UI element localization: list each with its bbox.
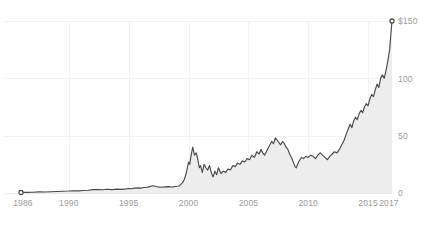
y-tick-label-0: 0	[398, 188, 403, 198]
x-tick-label-2010: 2010	[298, 198, 318, 208]
y-axis-tick-labels: 050100$150	[398, 16, 418, 198]
price-area-fill	[21, 21, 392, 193]
y-tick-label-50: 50	[398, 131, 408, 141]
y-tick-label-150: $150	[398, 16, 418, 26]
stock-price-chart: 050100$150 19861990199520002005201020152…	[0, 0, 434, 229]
x-tick-label-2000: 2000	[179, 198, 199, 208]
start-marker	[19, 190, 23, 194]
x-axis-tick-labels: 19861990199520002005201020152017	[13, 198, 399, 208]
x-tick-label-1990: 1990	[59, 198, 79, 208]
x-tick-label-1995: 1995	[119, 198, 139, 208]
chart-canvas: 050100$150 19861990199520002005201020152…	[0, 0, 434, 229]
x-tick-label-2017: 2017	[379, 198, 399, 208]
x-tick-label-1986: 1986	[13, 198, 33, 208]
end-marker	[390, 19, 394, 23]
x-tick-label-2015: 2015	[358, 198, 378, 208]
y-tick-label-100: 100	[398, 74, 413, 84]
x-tick-label-2005: 2005	[239, 198, 259, 208]
